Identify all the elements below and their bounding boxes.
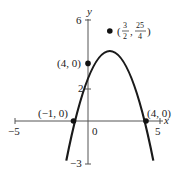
tick-label-y-neg3: −3 [70, 157, 82, 169]
svg-text:25: 25 [136, 21, 144, 30]
svg-text:3: 3 [123, 21, 127, 30]
parabola-chart: y x −5 0 5 6 2 −3 (−1, 0) (4, 0) (4, 0) … [0, 0, 179, 180]
label-left-intercept: (−1, 0) [38, 107, 68, 120]
label-vertex: ( 3 2 , 25 4 ) [117, 21, 151, 41]
svg-text:4: 4 [138, 32, 142, 41]
point-vertex [107, 28, 113, 34]
svg-text:): ) [147, 25, 151, 38]
svg-text:,: , [130, 25, 133, 37]
point-left-intercept [71, 118, 77, 124]
point-y-intercept [85, 61, 91, 67]
tick-label-x-neg5: −5 [8, 125, 20, 137]
label-right-intercept: (4, 0) [147, 107, 171, 120]
label-y-intercept: (4, 0) [57, 57, 81, 70]
tick-label-x-0: 0 [92, 125, 98, 137]
tick-label-x-5: 5 [155, 125, 161, 137]
svg-text:(: ( [117, 25, 121, 38]
y-axis-label: y [86, 5, 92, 17]
tick-label-y-2: 2 [78, 82, 84, 94]
tick-label-y-6: 6 [76, 14, 82, 26]
svg-text:2: 2 [123, 32, 127, 41]
point-right-intercept [143, 118, 149, 124]
